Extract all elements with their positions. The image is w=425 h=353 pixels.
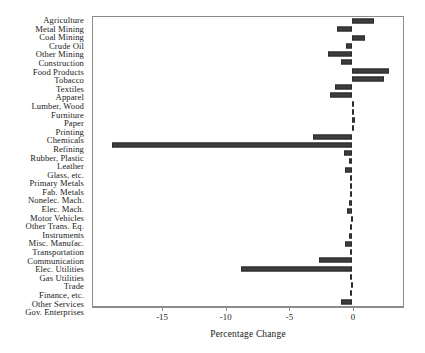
bar [330,93,353,98]
bar [350,291,353,296]
bar-row [93,174,403,182]
x-axis-tick-label: -15 [156,312,168,322]
bar-row [93,273,403,281]
bar-row [93,58,403,66]
bar-row [93,240,403,248]
bar-row [93,265,403,273]
x-axis-tick-label: 0 [351,312,355,322]
bar [345,241,353,246]
bar [352,76,384,81]
bar [349,233,353,238]
x-axis-tick-label: -5 [286,312,293,322]
bar-row [93,75,403,83]
bar [352,118,355,123]
bar [352,101,354,106]
bar-row [93,108,403,116]
bar-row [93,83,403,91]
bar-row [93,232,403,240]
bar [347,208,352,213]
bar [350,175,353,180]
x-axis-title: Percentage Change [92,329,404,339]
bar [351,217,353,222]
bar [352,19,374,24]
bar [352,35,365,40]
bar-row [93,199,403,207]
bar [350,184,352,189]
category-label: Gov. Enterprises [0,308,88,317]
bar-row [93,166,403,174]
bar [337,27,352,32]
bar-row [93,289,403,297]
x-axis-tick [353,307,354,311]
bar-row [93,207,403,215]
bar [313,134,352,139]
bar-row [93,17,403,25]
bar [350,192,353,197]
bar-row [93,256,403,264]
bar [112,142,352,147]
plot-area [92,16,404,307]
bar-rows [93,17,403,306]
x-axis-tick-label: -10 [220,312,232,322]
bar [319,258,352,263]
bar-row [93,25,403,33]
bar-row [93,141,403,149]
bar-row [93,100,403,108]
bar-row [93,281,403,289]
bar-chart-figure: AgricultureMetal MiningCoal MiningCrude … [0,0,425,353]
x-axis-tick [226,307,227,311]
bar-row [93,248,403,256]
bar-row [93,34,403,42]
bar [352,68,389,73]
bar [346,43,352,48]
bar [349,200,353,205]
bar-row [93,67,403,75]
bar-row [93,215,403,223]
bar-row [93,133,403,141]
category-axis-labels: AgricultureMetal MiningCoal MiningCrude … [0,16,88,307]
bar-row [93,182,403,190]
bar-row [93,149,403,157]
bar [344,151,353,156]
bar-row [93,190,403,198]
bar-row [93,116,403,124]
bar [328,52,352,57]
x-axis: -15-10-50 [92,307,404,308]
bar [341,60,352,65]
bar [349,159,353,164]
bar [341,299,352,304]
bar-row [93,42,403,50]
bar-row [93,124,403,132]
bar-row [93,91,403,99]
bar [345,167,353,172]
bar-row [93,298,403,306]
bar-row [93,223,403,231]
x-axis-tick [162,307,163,311]
bar [241,266,352,271]
bar [350,274,353,279]
bar [352,109,354,114]
bar-row [93,50,403,58]
bar [335,85,353,90]
x-axis-tick [289,307,290,311]
bar-row [93,157,403,165]
bar [351,283,353,288]
bar [352,126,354,131]
bar [350,250,353,255]
bar [350,225,352,230]
